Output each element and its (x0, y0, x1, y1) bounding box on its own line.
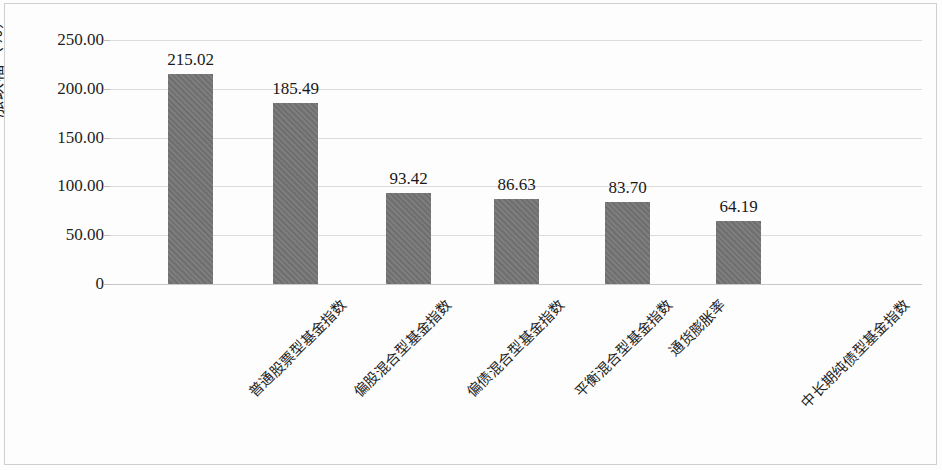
x-axis-label: 普通股票型基金指数 (243, 294, 350, 401)
bar-value-label: 86.63 (472, 175, 562, 195)
bar (168, 74, 213, 284)
gridline (110, 284, 922, 285)
y-axis-tick-label: 100.00 (0, 177, 104, 194)
x-axis-label: 平衡混合型基金指数 (569, 294, 676, 401)
y-axis-tick-label: 150.00 (0, 129, 104, 146)
plot-area (110, 40, 922, 284)
y-axis-title: 涨跌幅（%） (0, 11, 7, 118)
y-axis-tick-mark (103, 235, 110, 236)
y-axis-tick-label: 250.00 (0, 31, 104, 48)
y-axis-tick-mark (103, 284, 110, 285)
gridline (110, 40, 922, 41)
x-axis-label-text: 偏股混合型基金指数 (348, 294, 455, 401)
bar-value-label: 93.42 (364, 169, 454, 189)
y-axis-tick-label: 200.00 (0, 80, 104, 97)
bar (386, 193, 431, 284)
x-axis-label-text: 普通股票型基金指数 (243, 294, 350, 401)
bar-value-label: 64.19 (694, 197, 784, 217)
x-axis-label-text: 平衡混合型基金指数 (569, 294, 676, 401)
bar-value-label: 185.49 (251, 79, 341, 99)
y-axis-tick-mark (103, 138, 110, 139)
bar (605, 202, 650, 284)
gridline (110, 138, 922, 139)
bar-value-label: 215.02 (146, 50, 236, 70)
gridline (110, 89, 922, 90)
x-axis-label-text: 偏债混合型基金指数 (461, 294, 568, 401)
y-axis-tick-label: 50.00 (0, 226, 104, 243)
x-axis-label: 偏债混合型基金指数 (461, 294, 568, 401)
y-axis-tick-mark (103, 89, 110, 90)
y-axis-tick-mark (103, 40, 110, 41)
chart-page: 涨跌幅（%） 250.00200.00150.00100.0050.000 21… (0, 0, 942, 470)
bar (494, 199, 539, 284)
y-axis-tick-mark (103, 186, 110, 187)
x-axis-label-text: 中长期纯债型基金指数 (795, 294, 912, 411)
x-axis-label: 中长期纯债型基金指数 (795, 294, 912, 411)
x-axis-label: 偏股混合型基金指数 (348, 294, 455, 401)
bar-value-label: 83.70 (583, 178, 673, 198)
bar (716, 221, 761, 284)
bar (273, 103, 318, 284)
y-axis-tick-label: 0 (0, 275, 104, 292)
